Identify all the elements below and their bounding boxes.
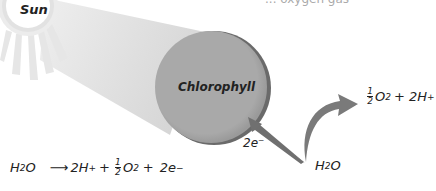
eq-electrons-sup: −: [176, 163, 184, 173]
sun-label: Sun: [20, 2, 48, 17]
eq-oxygen-sub: 2: [133, 163, 139, 173]
eq-arrow: ⟶: [50, 160, 69, 175]
eq-reactant-o: O: [26, 160, 36, 175]
sun-ray: [0, 30, 12, 62]
eq-oxygen-o: O: [123, 160, 133, 175]
eq-frac-den: 2: [115, 168, 121, 177]
chlorophyll-label: Chlorophyll: [178, 80, 255, 94]
oxygen-sub: 2: [385, 92, 391, 102]
products-label: 1 2 O2 + 2H+: [365, 87, 435, 106]
sun-ray: [12, 34, 22, 75]
plus-h: + 2H: [394, 89, 427, 104]
water-h: H: [315, 158, 325, 173]
h-sup: +: [427, 92, 435, 102]
eq-product-h-sup: +: [88, 163, 96, 173]
eq-reactant-h: H: [10, 160, 20, 175]
frac-den: 2: [367, 97, 373, 106]
eq-product-h: 2H: [70, 160, 88, 175]
eq-plus-1: +: [99, 160, 110, 175]
eq-half-fraction: 1 2: [115, 158, 121, 177]
eq-electrons: 2e: [160, 160, 176, 175]
oxygen-release-arrow: [304, 94, 358, 162]
water-source-label: H2O: [315, 158, 341, 173]
half-fraction: 1 2: [367, 87, 373, 106]
sun-ray: [28, 35, 38, 80]
caption-fragment: ... oxygen gas: [265, 0, 349, 6]
oxygen-o: O: [375, 89, 385, 104]
water-o: O: [331, 158, 341, 173]
frac-num: 1: [367, 87, 373, 96]
overall-equation: H2O ⟶ 2H+ + 1 2 O2 + 2e−: [10, 158, 184, 177]
eq-frac-num: 1: [115, 158, 121, 167]
eq-plus-2: +: [143, 160, 154, 175]
electron-label: 2e⁻: [243, 136, 264, 150]
